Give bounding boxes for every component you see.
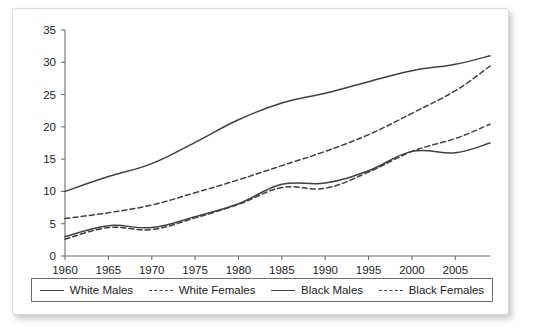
legend-swatch-solid-line-icon — [40, 290, 64, 291]
legend-label: White Males — [70, 284, 133, 296]
x-tick-label: 1960 — [52, 264, 78, 276]
legend-entry-white-males[interactable]: White Males — [40, 284, 133, 296]
x-tick-label: 2000 — [399, 264, 425, 276]
chart-series-group — [65, 56, 490, 239]
legend-entry-white-females[interactable]: White Females — [149, 284, 256, 296]
legend-label: Black Females — [409, 284, 484, 296]
x-tick-label: 1985 — [269, 264, 295, 276]
x-tick-label: 1995 — [356, 264, 382, 276]
legend-swatch-solid-line-icon — [271, 290, 295, 291]
legend-entry-black-females[interactable]: Black Females — [379, 284, 484, 296]
legend-swatch-dashed-line-icon — [379, 290, 403, 291]
y-tick-label: 30 — [43, 56, 56, 68]
y-tick-label: 15 — [43, 153, 56, 165]
chart-legend: White MalesWhite FemalesBlack MalesBlack… — [31, 278, 493, 302]
figure-frame: 05101520253035 1960196519701975198019851… — [12, 8, 509, 315]
chart-svg: 05101520253035 1960196519701975198019851… — [13, 9, 510, 316]
series-line-white-males — [65, 56, 490, 192]
legend-label: White Females — [179, 284, 256, 296]
series-line-black-females — [65, 124, 490, 239]
y-tick-label: 10 — [43, 185, 56, 197]
legend-label: Black Males — [301, 284, 363, 296]
y-tick-label: 20 — [43, 121, 56, 133]
legend-entry-black-males[interactable]: Black Males — [271, 284, 363, 296]
y-tick-label: 5 — [50, 218, 56, 230]
line-chart: 05101520253035 1960196519701975198019851… — [13, 9, 510, 316]
series-line-white-females — [65, 66, 490, 218]
y-tick-label: 0 — [50, 250, 56, 262]
y-tick-label: 25 — [43, 89, 56, 101]
series-line-black-males — [65, 143, 490, 237]
x-axis-tick-labels: 1960196519701975198019851990199520002005 — [52, 264, 468, 276]
x-tick-label: 1990 — [312, 264, 338, 276]
x-tick-label: 1970 — [139, 264, 165, 276]
y-axis-tick-labels: 05101520253035 — [43, 24, 56, 262]
x-tick-label: 1965 — [96, 264, 122, 276]
x-tick-label: 1980 — [226, 264, 252, 276]
x-tick-label: 2005 — [443, 264, 469, 276]
x-tick-label: 1975 — [182, 264, 208, 276]
y-tick-label: 35 — [43, 24, 56, 36]
legend-swatch-dashed-line-icon — [149, 290, 173, 291]
